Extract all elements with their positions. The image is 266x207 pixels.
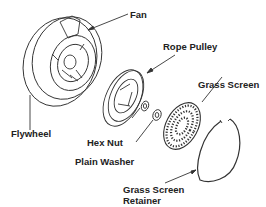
- label-fan: Fan: [130, 9, 147, 20]
- label-hex-nut: Hex Nut: [87, 137, 123, 148]
- plain-washer-leader: [136, 120, 153, 142]
- grass-screen-drawing: [156, 96, 208, 155]
- label-grass-screen: Grass Screen: [198, 79, 259, 90]
- label-plain-washer: Plain Washer: [75, 156, 134, 167]
- rope-pulley-drawing: [95, 64, 151, 133]
- label-flywheel: Flywheel: [11, 128, 51, 139]
- diagram-drawing: [0, 0, 266, 207]
- retainer-drawing: [198, 119, 240, 181]
- label-retainer-line1: Grass Screen: [123, 184, 184, 195]
- plain-washer-drawing: [151, 108, 162, 121]
- flywheel-drawing: [12, 8, 112, 116]
- parts-diagram: Fan Rope Pulley Grass Screen Flywheel He…: [0, 0, 266, 207]
- label-rope-pulley: Rope Pulley: [163, 41, 217, 52]
- hex-nut-drawing: [140, 100, 150, 112]
- label-retainer-line2: Retainer: [123, 195, 161, 206]
